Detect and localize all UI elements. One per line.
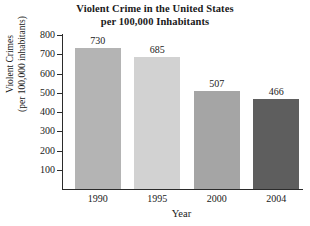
x-axis-tick-label: 1995: [127, 193, 187, 204]
bar: [75, 48, 121, 189]
y-axis-tick-label: 600: [15, 69, 55, 79]
y-axis-tick-label: 100: [15, 165, 55, 175]
x-axis-tick-label: 1990: [68, 193, 128, 204]
y-axis-tick: [57, 112, 63, 113]
bar-value-label: 507: [187, 79, 247, 89]
y-axis-tick: [57, 170, 63, 171]
y-axis-tick-label: 200: [15, 146, 55, 156]
y-axis-tick: [57, 54, 63, 55]
y-axis-tick: [57, 93, 63, 94]
bar-value-label: 685: [127, 45, 187, 55]
bar: [134, 57, 180, 189]
y-axis-tick-label: 800: [15, 30, 55, 40]
chart-title-line-2: per 100,000 Inhabitants: [0, 16, 310, 29]
y-axis-tick: [57, 151, 63, 152]
y-axis-tick: [57, 131, 63, 132]
x-axis-spine: [62, 189, 303, 190]
bar: [194, 91, 240, 189]
bar-value-label: 466: [246, 87, 306, 97]
y-axis-tick: [57, 35, 63, 36]
y-axis-tick-label: 400: [15, 107, 55, 117]
y-axis-tick-label: 700: [15, 49, 55, 59]
chart-title: Violent Crime in the United States per 1…: [0, 3, 310, 28]
x-axis-tick-label: 2004: [246, 193, 306, 204]
bar-value-label: 730: [68, 36, 128, 46]
bar: [253, 99, 299, 189]
y-axis-tick-label: 500: [15, 88, 55, 98]
x-axis-tick-label: 2000: [187, 193, 247, 204]
y-axis-tick-label: 300: [15, 126, 55, 136]
y-axis-tick: [57, 74, 63, 75]
chart-title-line-1: Violent Crime in the United States: [0, 3, 310, 16]
x-axis-title: Year: [63, 208, 300, 219]
violent-crime-bar-chart: Violent Crime in the United States per 1…: [0, 0, 310, 226]
